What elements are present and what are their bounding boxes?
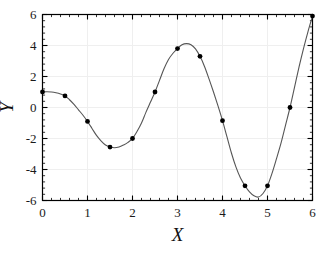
data-point [63,93,68,98]
y-tick-label: 6 [30,7,37,22]
data-point [288,105,293,110]
data-point [130,136,135,141]
x-tick-label: 2 [129,205,136,220]
data-point [85,119,90,124]
data-point [310,14,315,19]
y-tick-label: 0 [30,100,37,115]
chart-background [0,0,325,253]
x-tick-label: 5 [264,205,271,220]
y-tick-label: -4 [26,162,37,177]
data-point [243,183,248,188]
y-tick-label: -2 [26,131,37,146]
data-point [265,183,270,188]
y-tick-label: -6 [26,193,37,208]
line-chart: 0123456 -6-4-20246 X Y [0,0,325,253]
x-tick-label: 6 [309,205,316,220]
data-point [153,90,158,95]
x-tick-label: 3 [174,205,181,220]
data-point [175,46,180,51]
data-point [40,90,45,95]
data-point [220,118,225,123]
x-tick-label: 1 [84,205,91,220]
x-tick-label: 0 [39,205,46,220]
y-tick-label: 4 [30,38,37,53]
data-point [108,145,113,150]
chart-figure: 0123456 -6-4-20246 X Y [0,0,325,253]
data-point [198,54,203,59]
y-tick-label: 2 [30,69,37,84]
x-tick-label: 4 [219,205,226,220]
x-axis-label: X [171,224,185,245]
